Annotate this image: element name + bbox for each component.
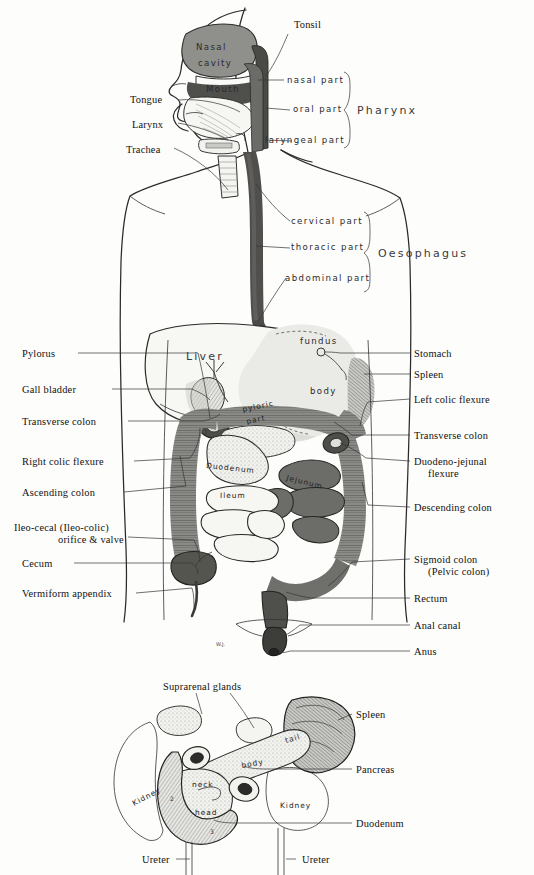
label-ascending-colon: Ascending colon — [22, 487, 96, 498]
label-transverse-colon-left: Transverse colon — [22, 416, 97, 427]
label-pharynx: Pharynx — [357, 104, 417, 117]
label-fundus: fundus — [300, 336, 338, 346]
artist-signature: W.J. — [216, 641, 225, 647]
label-stomach: Stomach — [414, 348, 452, 359]
rectum-shape — [262, 591, 288, 628]
label-ileo-cecal-line2: orifice & valve — [58, 534, 124, 545]
vermiform-appendix-shape — [192, 582, 197, 616]
label-sigmoid-colon-line1: Sigmoid colon — [414, 554, 478, 565]
label-ureter-right: Ureter — [302, 854, 330, 865]
label-sigmoid-colon-line2: (Pelvic colon) — [428, 566, 489, 578]
label-laryngeal-part: laryngeal part — [265, 135, 345, 145]
label-pylorus: Pylorus — [22, 348, 55, 359]
label-stomach-body: body — [310, 386, 337, 396]
label-vermiform-appendix: Vermiform appendix — [22, 588, 112, 599]
cecum-shape — [171, 552, 216, 586]
label-rectum: Rectum — [414, 593, 448, 604]
label-liver: Liver — [186, 350, 224, 363]
label-duodeno-jejunal-line2: flexure — [428, 468, 459, 479]
label-mouth: Mouth — [206, 84, 240, 94]
ascending-colon-shape — [170, 420, 204, 562]
duodenum-part-1: 1 — [180, 757, 184, 764]
pancreas-detail-figure — [114, 697, 355, 875]
label-anus: Anus — [414, 646, 437, 657]
label-left-colic-flexure: Left colic flexure — [414, 394, 490, 405]
label-thoracic-part: thoracic part — [291, 242, 364, 252]
label-pancreas-neck: neck — [192, 780, 214, 789]
label-tongue: Tongue — [130, 94, 162, 105]
label-kidney-right: Kidney — [280, 801, 311, 810]
label-trachea: Trachea — [126, 144, 161, 155]
label-ileum: Ileum — [220, 491, 246, 500]
label-spleen-detail: Spleen — [356, 709, 386, 720]
right-kidney-shape — [266, 767, 328, 830]
label-pancreas-head: head — [195, 808, 217, 817]
label-tonsil: Tonsil — [294, 19, 321, 30]
label-ureter-left: Ureter — [142, 854, 170, 865]
label-descending-colon: Descending colon — [414, 502, 493, 513]
label-gall-bladder: Gall bladder — [22, 384, 76, 395]
label-anal-canal: Anal canal — [414, 620, 461, 631]
label-spleen: Spleen — [414, 369, 444, 380]
anatomy-illustration: Tongue Larynx Trachea Tonsil Nasal cavit… — [0, 0, 534, 875]
label-right-colic-flexure: Right colic flexure — [22, 456, 104, 467]
label-nasal-part: nasal part — [287, 75, 344, 85]
label-abdominal-part: abdominal part — [285, 273, 370, 283]
label-nasal-cavity-line1: Nasal — [196, 42, 227, 52]
head-sagittal-section — [169, 10, 258, 198]
left-suprarenal-gland-shape — [157, 706, 201, 735]
anus-shape — [269, 649, 279, 656]
label-cecum: Cecum — [22, 558, 52, 569]
leader-lines-abdomen-left — [74, 353, 220, 610]
label-nasal-cavity-line2: cavity — [198, 58, 232, 68]
label-duodenum-detail: Duodenum — [356, 818, 404, 829]
duodenum-part-3: 3 — [210, 828, 214, 835]
label-suprarenal-glands: Suprarenal glands — [163, 681, 241, 692]
label-larynx: Larynx — [132, 119, 164, 130]
duodenum-part-2: 2 — [170, 795, 174, 802]
label-duodeno-jejunal-line1: Duodeno-jejunal — [414, 456, 487, 467]
label-oesophagus: Oesophagus — [378, 247, 468, 260]
label-ileo-cecal-line1: Ileo-cecal (Ileo-colic) — [14, 522, 109, 534]
label-transverse-colon-right: Transverse colon — [414, 430, 489, 441]
label-cervical-part: cervical part — [291, 216, 363, 226]
label-oral-part: oral part — [293, 104, 342, 114]
label-pancreas: Pancreas — [356, 764, 395, 775]
diagram-page: Tongue Larynx Trachea Tonsil Nasal cavit… — [0, 0, 534, 875]
left-kidney-shape — [114, 722, 163, 841]
